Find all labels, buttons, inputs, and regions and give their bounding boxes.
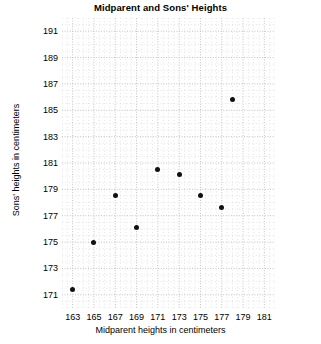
y-tick-label: 171 [24,290,58,300]
y-tick-label: 189 [24,53,58,63]
y-tick-label: 187 [24,79,58,89]
x-axis-tick-labels: 163165167169171173175177179181 [62,312,275,326]
x-tick-label: 181 [249,312,279,322]
scatter-chart-figure: Midparent and Sons' Heights Sons' height… [0,0,321,344]
y-tick-label: 179 [24,184,58,194]
y-tick-label: 175 [24,237,58,247]
y-axis-tick-labels: 171173175177179181183185187189191 [22,18,58,308]
x-axis-label: Midparent heights in centimeters [0,325,321,335]
y-axis-label: Sons' heights in centimeters [11,75,21,245]
y-tick-label: 185 [24,105,58,115]
grid-lines [62,18,275,308]
y-tick-label: 177 [24,211,58,221]
y-tick-label: 191 [24,26,58,36]
y-tick-label: 173 [24,263,58,273]
chart-title: Midparent and Sons' Heights [0,2,321,13]
y-tick-label: 183 [24,132,58,142]
plot-area [62,18,275,308]
y-tick-label: 181 [24,158,58,168]
